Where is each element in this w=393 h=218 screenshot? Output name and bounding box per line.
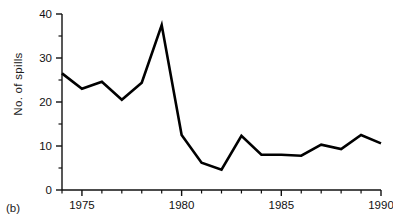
line-chart: 010203040 1975198019851990 [0,0,393,218]
y-tick-label: 10 [39,140,52,152]
panel-label: (b) [6,202,20,214]
y-tick-label: 0 [46,184,52,196]
figure-panel-b: No. of spills (b) 010203040 197519801985… [0,0,393,218]
x-tick-label: 1990 [368,199,393,211]
y-tick-label: 40 [39,8,52,20]
x-tick-label: 1980 [169,199,195,211]
y-axis: 010203040 [39,8,62,196]
data-series-no-of-spills [62,25,381,170]
x-axis: 1975198019851990 [62,190,393,211]
x-tick-label: 1975 [69,199,95,211]
y-tick-label: 30 [39,52,52,64]
x-tick-label: 1985 [269,199,295,211]
y-axis-title: No. of spills [12,44,24,124]
y-tick-label: 20 [39,96,52,108]
series-line [62,25,381,170]
